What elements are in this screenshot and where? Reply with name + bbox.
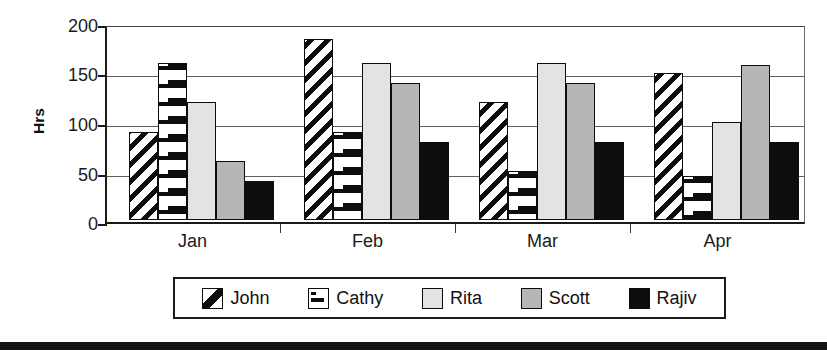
x-category-label-mar: Mar <box>455 232 630 252</box>
bar-rajiv-apr <box>770 142 799 220</box>
legend-label-john: John <box>230 288 269 309</box>
bar-john-apr <box>654 73 683 220</box>
bar-john-mar <box>479 102 508 220</box>
swatch-diagonal-stripes-icon <box>202 288 223 309</box>
y-axis-tick-labels: 200 150 100 50 0 <box>46 0 98 356</box>
bar-rajiv-feb <box>420 142 449 220</box>
bar-rita-apr <box>712 122 741 220</box>
plot-area <box>105 26 805 224</box>
bar-scott-jan <box>216 161 245 220</box>
x-category-label-jan: Jan <box>105 232 280 252</box>
bar-cathy-jan <box>158 63 187 220</box>
x-category-label-apr: Apr <box>630 232 805 252</box>
bar-john-feb <box>304 39 333 220</box>
bar-rita-feb <box>362 63 391 220</box>
bar-chart-figure: Hrs 200 150 100 50 0 Jan Feb Mar Apr Joh… <box>0 0 827 356</box>
swatch-light-gray-icon <box>422 288 443 309</box>
legend-label-rita: Rita <box>450 288 482 309</box>
chart-legend: John Cathy Rita Scott Rajiv <box>173 277 726 319</box>
x-category-label-feb: Feb <box>280 232 455 252</box>
legend-label-scott: Scott <box>549 288 590 309</box>
swatch-dashes-icon <box>308 288 329 309</box>
swatch-medium-gray-icon <box>521 288 542 309</box>
bar-john-jan <box>129 132 158 220</box>
legend-label-cathy: Cathy <box>336 288 383 309</box>
swatch-black-icon <box>629 288 650 309</box>
plot-area-wrapper <box>105 26 805 224</box>
bar-cathy-apr <box>683 176 712 220</box>
y-tick-label-50: 50 <box>52 166 98 184</box>
bar-rajiv-jan <box>245 181 274 220</box>
bar-cathy-mar <box>508 171 537 220</box>
legend-item-scott[interactable]: Scott <box>521 288 590 309</box>
legend-item-john[interactable]: John <box>202 288 269 309</box>
bar-rajiv-mar <box>595 142 624 220</box>
legend-item-rajiv[interactable]: Rajiv <box>629 288 697 309</box>
bar-cathy-feb <box>333 132 362 220</box>
gridline-150 <box>107 76 804 77</box>
bar-scott-feb <box>391 83 420 220</box>
y-tick-label-200: 200 <box>52 17 98 35</box>
y-tick-label-150: 150 <box>52 66 98 84</box>
bar-scott-mar <box>566 83 595 220</box>
legend-item-rita[interactable]: Rita <box>422 288 482 309</box>
y-tick-label-100: 100 <box>52 116 98 134</box>
legend-label-rajiv: Rajiv <box>657 288 697 309</box>
legend-item-cathy[interactable]: Cathy <box>308 288 383 309</box>
y-tick-label-0: 0 <box>52 215 98 233</box>
bar-rita-jan <box>187 102 216 220</box>
bar-scott-apr <box>741 65 770 220</box>
y-tick-mark-0 <box>98 224 107 226</box>
bar-rita-mar <box>537 63 566 220</box>
page-bottom-rule <box>0 342 827 350</box>
